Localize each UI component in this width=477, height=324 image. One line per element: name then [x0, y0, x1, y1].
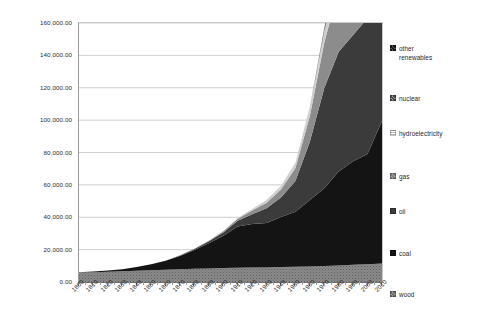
energy-consumption-area-chart: 160,000.00140,000.00120,000.00100,000.00…	[0, 0, 477, 324]
legend-item-label: coal	[399, 249, 411, 258]
legend-swatch-icon	[390, 45, 396, 51]
y-axis-tick-label: 0.00	[60, 278, 72, 285]
legend-item-gas[interactable]: gas	[390, 172, 477, 181]
legend-swatch-icon	[390, 291, 396, 297]
x-axis-minor-tick	[359, 282, 360, 285]
y-axis-tick-label: 160,000.00	[40, 19, 72, 26]
x-axis-minor-tick	[100, 282, 101, 285]
legend-item-label: other renewables	[399, 44, 432, 63]
legend-item-hydroelectricity[interactable]: hydroelectricity	[390, 129, 477, 138]
x-axis-minor-tick	[157, 282, 158, 285]
x-axis-minor-tick	[230, 282, 231, 285]
chart-legend: other renewablesnuclearhydroelectricityg…	[390, 44, 477, 304]
x-axis-minor-tick	[258, 282, 259, 285]
y-axis-tick-label: 140,000.00	[40, 51, 72, 58]
plot-area	[78, 22, 383, 283]
legend-item-label: wood	[399, 290, 414, 299]
legend-item-oil[interactable]: oil	[390, 207, 477, 216]
y-axis-tick-label: 100,000.00	[40, 116, 72, 123]
legend-item-label: nuclear	[399, 94, 420, 103]
x-axis-minor-tick	[302, 282, 303, 285]
legend-swatch-icon	[390, 173, 396, 179]
y-axis-tick-label: 120,000.00	[40, 83, 72, 90]
legend-swatch-icon	[390, 208, 396, 214]
legend-swatch-icon	[390, 95, 396, 101]
x-axis-minor-tick	[331, 282, 332, 285]
legend-item-label: oil	[399, 207, 406, 216]
legend-item-label: hydroelectricity	[399, 129, 442, 138]
y-axis-tick-label: 20,000.00	[44, 245, 72, 252]
legend-item-other-renewables[interactable]: other renewables	[390, 44, 477, 63]
y-axis-tick-label: 60,000.00	[44, 180, 72, 187]
legend-item-label: gas	[399, 172, 409, 181]
stacked-area-plot	[79, 23, 382, 282]
legend-swatch-icon	[390, 250, 396, 256]
x-axis-minor-tick	[201, 282, 202, 285]
legend-item-wood[interactable]: wood	[390, 290, 477, 299]
y-axis-tick-label: 80,000.00	[44, 148, 72, 155]
legend-item-nuclear[interactable]: nuclear	[390, 94, 477, 103]
y-axis: 160,000.00140,000.00120,000.00100,000.00…	[0, 0, 76, 324]
x-axis-minor-tick	[129, 282, 130, 285]
legend-item-coal[interactable]: coal	[390, 249, 477, 258]
y-axis-tick-label: 40,000.00	[44, 213, 72, 220]
legend-swatch-icon	[390, 130, 396, 136]
